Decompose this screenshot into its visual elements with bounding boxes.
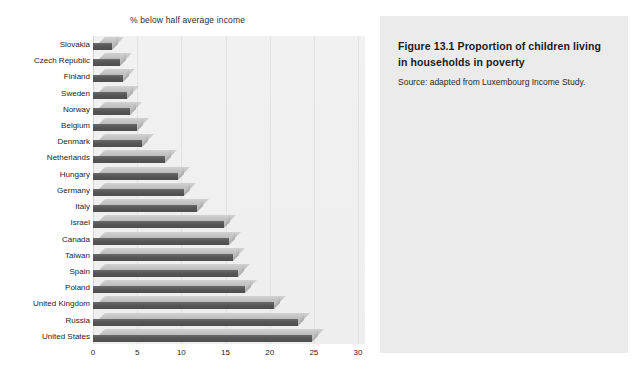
bar-row: United States xyxy=(0,329,375,345)
x-tick-5: 5 xyxy=(135,348,139,357)
bar-row: Poland xyxy=(0,280,375,296)
bar-front-face xyxy=(93,108,130,115)
bar-front-face xyxy=(93,75,123,82)
bar-row: Italy xyxy=(0,199,375,215)
bar-front-face xyxy=(93,335,312,342)
bar-front-face xyxy=(93,173,178,180)
bar-sweden xyxy=(93,86,133,99)
bar-label-norway: Norway xyxy=(63,105,90,115)
bar-row: Israel xyxy=(0,215,375,231)
bar-row: Belgium xyxy=(0,118,375,134)
x-tick-0: 0 xyxy=(91,348,95,357)
bar-label-poland: Poland xyxy=(65,283,90,293)
bar-russia xyxy=(93,313,304,326)
bar-front-face xyxy=(93,189,184,196)
bar-front-face xyxy=(93,59,120,66)
bar-row: Russia xyxy=(0,313,375,329)
bar-row: Germany xyxy=(0,183,375,199)
bar-united-states xyxy=(93,329,318,342)
bar-front-face xyxy=(93,205,197,212)
bar-germany xyxy=(93,183,190,196)
bar-label-netherlands: Netherlands xyxy=(47,153,90,163)
bar-front-face xyxy=(93,286,245,293)
bar-label-israel: Israel xyxy=(70,218,90,228)
bar-label-sweden: Sweden xyxy=(61,89,90,99)
x-tick-30: 30 xyxy=(354,348,363,357)
bar-label-italy: Italy xyxy=(75,202,90,212)
bar-label-united-kingdom: United Kingdom xyxy=(33,299,90,309)
bar-front-face xyxy=(93,254,233,261)
bar-denmark xyxy=(93,134,148,147)
bar-front-face xyxy=(93,238,229,245)
bar-row: Denmark xyxy=(0,134,375,150)
bar-czech-republic xyxy=(93,53,126,66)
bar-taiwan xyxy=(93,248,239,261)
bar-row: Spain xyxy=(0,264,375,280)
bar-hungary xyxy=(93,167,184,180)
bar-front-face xyxy=(93,221,224,228)
bar-row: Czech Republic xyxy=(0,53,375,69)
bar-belgium xyxy=(93,118,143,131)
bar-front-face xyxy=(93,124,137,131)
bar-finland xyxy=(93,69,129,82)
x-tick-25: 25 xyxy=(309,348,318,357)
bar-front-face xyxy=(93,92,127,99)
bar-row: Norway xyxy=(0,102,375,118)
bar-row: Taiwan xyxy=(0,248,375,264)
bar-united-kingdom xyxy=(93,296,280,309)
bar-label-russia: Russia xyxy=(66,316,90,326)
bar-row: Sweden xyxy=(0,86,375,102)
bar-front-face xyxy=(93,270,238,277)
bar-label-belgium: Belgium xyxy=(61,121,90,131)
bar-italy xyxy=(93,199,203,212)
chart-region: % below half average income SlovakiaCzec… xyxy=(0,0,375,382)
bar-label-finland: Finland xyxy=(64,72,90,82)
bar-row: Canada xyxy=(0,232,375,248)
bar-front-face xyxy=(93,302,274,309)
bar-row: Netherlands xyxy=(0,150,375,166)
x-tick-20: 20 xyxy=(265,348,274,357)
bar-netherlands xyxy=(93,150,171,163)
bar-label-germany: Germany xyxy=(57,186,90,196)
caption-panel: Figure 13.1 Proportion of children livin… xyxy=(380,16,628,353)
bar-row: Slovakia xyxy=(0,37,375,53)
bar-front-face xyxy=(93,140,142,147)
bar-label-taiwan: Taiwan xyxy=(65,251,90,261)
bar-label-united-states: United States xyxy=(42,332,90,342)
caption-title: Figure 13.1 Proportion of children livin… xyxy=(398,38,610,70)
bar-norway xyxy=(93,102,136,115)
x-axis: 051015202530 xyxy=(0,344,375,366)
bar-poland xyxy=(93,280,251,293)
x-tick-15: 15 xyxy=(221,348,230,357)
bar-slovakia xyxy=(93,37,118,50)
bar-label-denmark: Denmark xyxy=(58,137,90,147)
bar-front-face xyxy=(93,156,165,163)
bar-label-slovakia: Slovakia xyxy=(60,40,90,50)
figure-page: % below half average income SlovakiaCzec… xyxy=(0,0,641,382)
caption-source: Source: adapted from Luxembourg Income S… xyxy=(398,76,610,88)
bar-series: SlovakiaCzech RepublicFinlandSwedenNorwa… xyxy=(0,36,375,344)
bar-label-czech-republic: Czech Republic xyxy=(34,56,90,66)
bar-front-face xyxy=(93,319,298,326)
bar-row: Hungary xyxy=(0,167,375,183)
bar-label-spain: Spain xyxy=(70,267,90,277)
bar-front-face xyxy=(93,43,112,50)
x-tick-10: 10 xyxy=(177,348,186,357)
bar-canada xyxy=(93,232,235,245)
bar-row: United Kingdom xyxy=(0,296,375,312)
chart-title: % below half average income xyxy=(0,15,375,25)
bar-label-canada: Canada xyxy=(62,235,90,245)
bar-spain xyxy=(93,264,244,277)
bar-row: Finland xyxy=(0,69,375,85)
bar-label-hungary: Hungary xyxy=(60,170,90,180)
bar-israel xyxy=(93,215,230,228)
